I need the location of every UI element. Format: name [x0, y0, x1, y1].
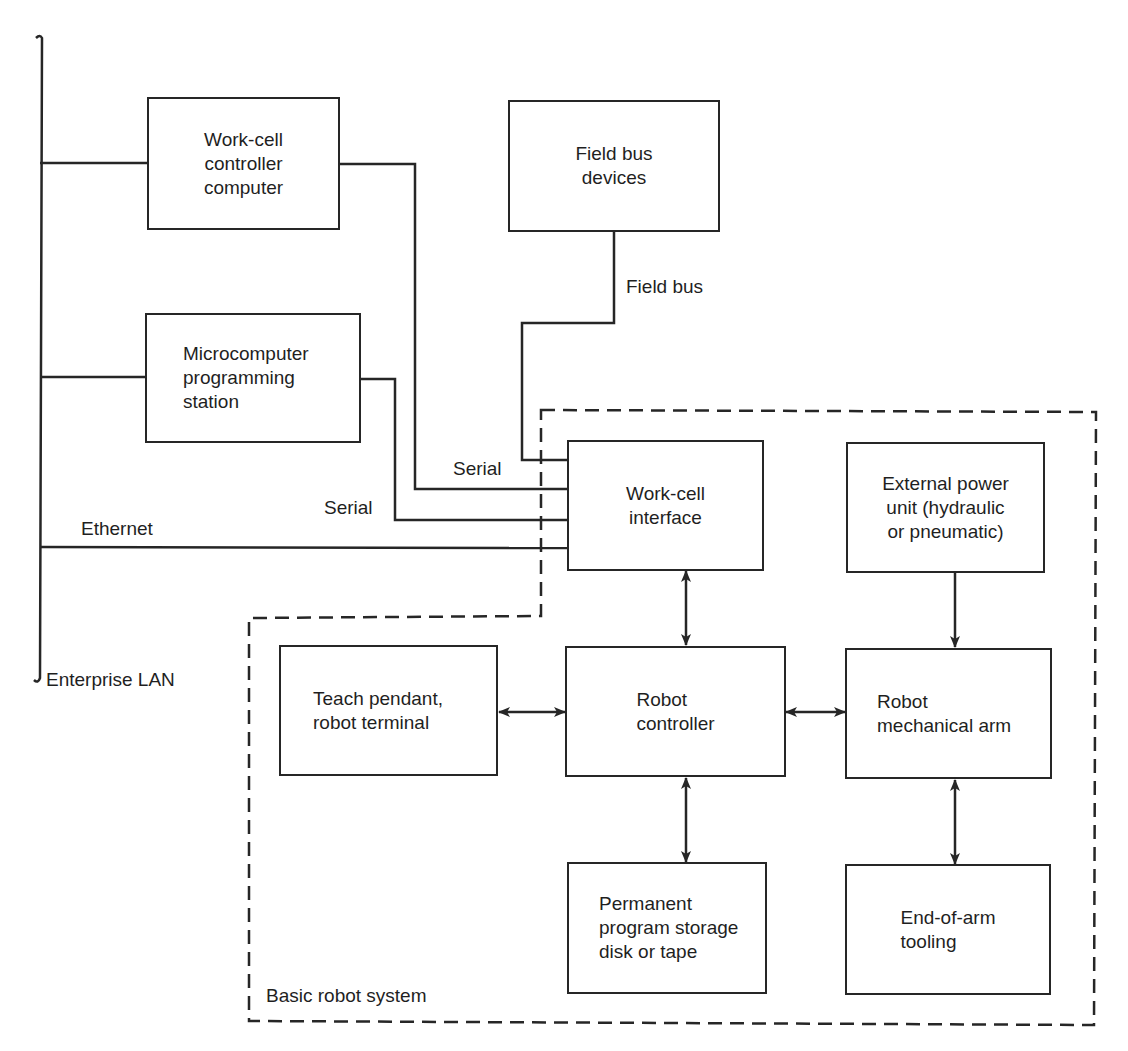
basic-robot-system-label: Basic robot system	[266, 985, 427, 1007]
external-power-box: External power unit (hydraulic or pneuma…	[846, 442, 1045, 573]
lan-backbone	[34, 36, 42, 682]
enterprise-lan-label: Enterprise LAN	[46, 669, 175, 691]
workcell-interface-label: Work-cell interface	[626, 482, 705, 530]
program-storage-box: Permanent program storage disk or tape	[567, 862, 767, 994]
robot-controller-label: Robot controller	[636, 688, 714, 736]
field-bus-label: Field bus	[626, 276, 703, 298]
end-of-arm-label: End-of-arm tooling	[900, 906, 995, 954]
ethernet-label: Ethernet	[81, 518, 153, 540]
workcell-interface-box: Work-cell interface	[567, 440, 764, 571]
robot-controller-box: Robot controller	[565, 646, 786, 777]
serial-label-2: Serial	[324, 497, 373, 519]
serial-label-1: Serial	[453, 458, 502, 480]
robot-arm-box: Robot mechanical arm	[845, 648, 1052, 779]
workcell-controller-label: Work-cell controller computer	[204, 128, 283, 200]
end-of-arm-box: End-of-arm tooling	[845, 864, 1051, 995]
external-power-label: External power unit (hydraulic or pneuma…	[882, 472, 1009, 544]
robot-arm-label: Robot mechanical arm	[877, 690, 1011, 738]
teach-pendant-label: Teach pendant, robot terminal	[313, 687, 443, 735]
workcell-controller-box: Work-cell controller computer	[147, 97, 340, 230]
teach-pendant-box: Teach pendant, robot terminal	[279, 645, 498, 776]
microcomputer-station-label: Microcomputer programming station	[183, 342, 309, 414]
program-storage-label: Permanent program storage disk or tape	[599, 892, 738, 964]
field-bus-devices-box: Field bus devices	[508, 100, 720, 232]
microcomputer-station-box: Microcomputer programming station	[145, 313, 361, 443]
field-bus-devices-label: Field bus devices	[575, 142, 652, 190]
